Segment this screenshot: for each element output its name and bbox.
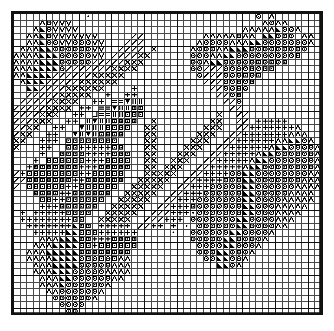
pattern-grid-canvas [13,13,321,314]
pattern-grid-frame [11,11,323,315]
cross-stitch-chart-root: Cross Stitch Pattern Chart [0,0,334,331]
